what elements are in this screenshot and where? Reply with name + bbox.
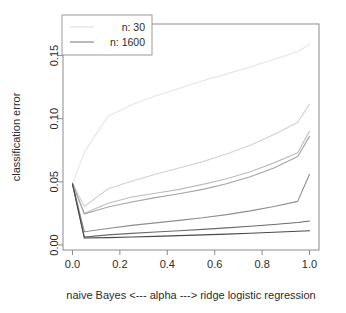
y-tick-label: 0.15 [48, 45, 60, 66]
y-axis-title: classification error [10, 92, 22, 181]
y-axis-ticks: 0.000.050.100.15 [48, 45, 63, 256]
y-tick-label: 0.10 [48, 108, 60, 129]
x-axis-title: naive Bayes <--- alpha ---> ridge logist… [66, 289, 315, 301]
x-tick-label: 0.8 [254, 258, 269, 270]
x-tick-label: 0.6 [207, 258, 222, 270]
x-tick-label: 0.4 [160, 258, 175, 270]
y-tick-label: 0.05 [48, 171, 60, 192]
classification-error-line-chart: 0.000.050.100.15 0.00.20.40.60.81.0 clas… [0, 0, 346, 313]
legend: n: 30 n: 1600 [62, 15, 152, 55]
plot-panel [63, 24, 319, 250]
chart-root: 0.000.050.100.15 0.00.20.40.60.81.0 clas… [0, 0, 346, 313]
legend-label-n30: n: 30 [122, 21, 146, 33]
legend-label-n1600: n: 1600 [110, 36, 145, 48]
x-tick-label: 0.0 [65, 258, 80, 270]
y-tick-label: 0.00 [48, 234, 60, 255]
x-axis-ticks: 0.00.20.40.60.81.0 [65, 250, 317, 270]
x-tick-label: 1.0 [302, 258, 317, 270]
x-tick-label: 0.2 [112, 258, 127, 270]
